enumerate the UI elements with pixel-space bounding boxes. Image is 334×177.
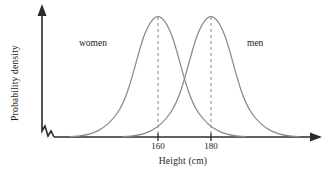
curve-annotation-men: men xyxy=(247,38,263,48)
x-axis xyxy=(54,133,322,142)
x-axis-label: Height (cm) xyxy=(128,156,238,166)
probability-density-chart: Probability density Height (cm) 160 180 … xyxy=(0,0,334,177)
curve-annotation-women: women xyxy=(79,38,107,48)
axis-break-zigzag xyxy=(42,126,54,137)
x-tick-label-180: 180 xyxy=(196,141,226,151)
density-curve-men xyxy=(123,17,299,137)
density-curve-women xyxy=(70,17,246,137)
x-axis-arrowhead xyxy=(310,133,322,142)
x-tick-label-160: 160 xyxy=(143,141,173,151)
y-axis xyxy=(38,4,47,127)
y-axis-arrowhead xyxy=(38,4,47,16)
y-axis-label: Probability density xyxy=(10,23,20,143)
